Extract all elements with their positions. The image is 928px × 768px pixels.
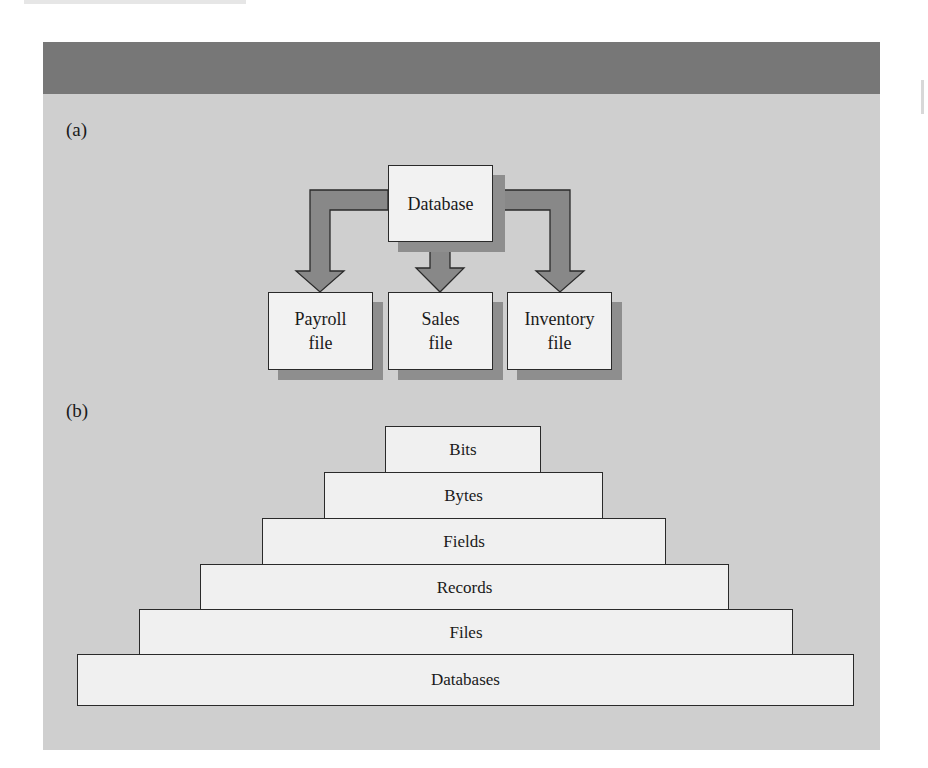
- sales-file-line2: file: [429, 331, 453, 355]
- pyramid-tier-fields: Fields: [262, 518, 666, 565]
- inventory-file-box: Inventory file: [507, 292, 612, 370]
- payroll-file-line2: file: [309, 331, 333, 355]
- tier-label: Bytes: [444, 486, 483, 506]
- database-box: Database: [388, 165, 493, 242]
- inventory-file-line2: file: [548, 331, 572, 355]
- pyramid-tier-bits: Bits: [385, 426, 541, 473]
- sales-file-line1: Sales: [422, 307, 460, 331]
- pyramid-tier-records: Records: [200, 564, 729, 611]
- arrow-to-inventory-icon: [493, 190, 584, 292]
- tier-label: Files: [449, 623, 482, 643]
- tier-label: Databases: [431, 670, 500, 690]
- payroll-file-line1: Payroll: [295, 307, 347, 331]
- tier-label: Records: [437, 578, 493, 598]
- pyramid-tier-bytes: Bytes: [324, 472, 603, 519]
- panel-b-label: (b): [66, 400, 88, 422]
- pyramid-tier-databases: Databases: [77, 654, 854, 706]
- tier-label: Fields: [443, 532, 485, 552]
- arrow-to-payroll-icon: [296, 190, 388, 292]
- tier-label: Bits: [449, 440, 476, 460]
- sales-file-box: Sales file: [388, 292, 493, 370]
- database-box-label: Database: [408, 192, 474, 216]
- pyramid-tier-files: Files: [139, 609, 793, 656]
- inventory-file-line1: Inventory: [525, 307, 595, 331]
- payroll-file-box: Payroll file: [268, 292, 373, 370]
